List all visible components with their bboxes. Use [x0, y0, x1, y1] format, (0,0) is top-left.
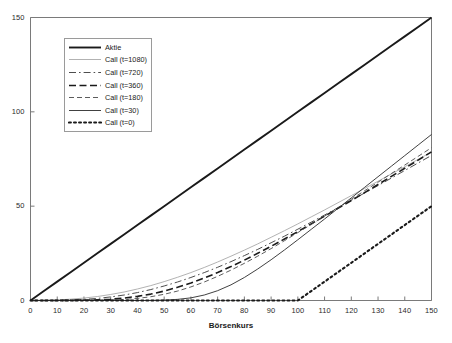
x-tick-label: 120 — [336, 306, 366, 315]
series-line-3 — [31, 152, 432, 301]
legend-item-label: Aktie — [105, 42, 121, 53]
x-tick-label: 60 — [176, 306, 206, 315]
legend-item-label: Call (t=360) — [105, 80, 143, 91]
legend-item-label: Call (t=0) — [105, 117, 135, 128]
legend-item-6: Call (t=0) — [65, 117, 149, 130]
x-tick-label: 150 — [417, 306, 447, 315]
series-line-6 — [31, 206, 432, 300]
y-tick-label: 150 — [2, 13, 25, 22]
legend-item-4: Call (t=180) — [65, 91, 149, 104]
legend-line-sample-icon — [68, 117, 102, 128]
chart-root: 050100150 010203040506070809010011012013… — [0, 0, 452, 343]
legend-item-label: Call (t=30) — [105, 105, 139, 116]
x-tick-label: 80 — [229, 306, 259, 315]
x-tick-label: 140 — [390, 306, 420, 315]
series-line-2 — [31, 155, 432, 300]
series-line-4 — [31, 148, 432, 301]
x-tick-label: 110 — [310, 306, 340, 315]
y-tick-label: 100 — [2, 107, 25, 116]
legend-item-1: Call (t=1080) — [65, 54, 149, 67]
legend-item-label: Call (t=1080) — [105, 54, 147, 65]
legend-item-3: Call (t=360) — [65, 79, 149, 92]
x-tick-label: 20 — [69, 306, 99, 315]
x-tick-label: 30 — [96, 306, 126, 315]
series-line-1 — [31, 152, 432, 300]
legend-line-sample-icon — [68, 42, 102, 53]
x-tick-label: 100 — [283, 306, 313, 315]
legend-line-sample-icon — [68, 105, 102, 116]
legend-item-0: Aktie — [65, 41, 149, 54]
x-tick-label: 70 — [203, 306, 233, 315]
x-tick-label: 50 — [149, 306, 179, 315]
legend-item-label: Call (t=180) — [105, 92, 143, 103]
legend-line-sample-icon — [68, 54, 102, 65]
legend-item-2: Call (t=720) — [65, 66, 149, 79]
legend-line-sample-icon — [68, 67, 102, 78]
legend-item-5: Call (t=30) — [65, 104, 149, 117]
legend-line-sample-icon — [68, 92, 102, 103]
chart-legend: AktieCall (t=1080)Call (t=720)Call (t=36… — [64, 38, 152, 132]
y-tick-label: 0 — [2, 296, 25, 305]
x-axis-title: Börsenkurs — [171, 321, 291, 330]
x-tick-label: 40 — [122, 306, 152, 315]
x-tick-label: 90 — [256, 306, 286, 315]
legend-item-label: Call (t=720) — [105, 67, 143, 78]
x-tick-label: 10 — [42, 306, 72, 315]
legend-line-sample-icon — [68, 80, 102, 91]
x-tick-label: 0 — [16, 306, 46, 315]
x-tick-label: 130 — [363, 306, 393, 315]
y-tick-label: 50 — [2, 201, 25, 210]
